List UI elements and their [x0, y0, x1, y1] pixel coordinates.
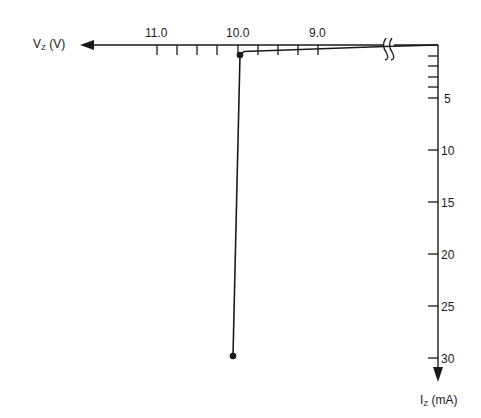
- zener-characteristic-chart: [0, 0, 481, 418]
- y-axis-title-unit: (mA): [432, 393, 458, 407]
- x-axis-title: VZ (V): [33, 37, 65, 52]
- x-tick-label-9: 9.0: [309, 26, 326, 40]
- x-axis-arrow-icon: [80, 40, 94, 50]
- zener-curve: [233, 45, 438, 356]
- y-tick-label-25: 25: [441, 300, 454, 314]
- x-axis-title-unit: (V): [49, 37, 65, 51]
- axis-break-icon: [384, 38, 394, 60]
- x-axis-title-symbol: V: [33, 37, 41, 51]
- x-axis-title-subscript: Z: [41, 43, 46, 52]
- y-tick-label-30: 30: [441, 352, 454, 366]
- y-axis-title-subscript: Z: [423, 399, 428, 408]
- x-tick-label-11: 11.0: [145, 26, 167, 40]
- y-tick-label-15: 15: [441, 196, 454, 210]
- y-tick-label-5: 5: [444, 92, 451, 106]
- y-tick-label-10: 10: [441, 144, 454, 158]
- max-current-point-marker: [230, 353, 237, 360]
- y-axis-arrow-icon: [433, 367, 443, 382]
- y-tick-label-20: 20: [441, 248, 454, 262]
- x-tick-label-10: 10.0: [226, 26, 249, 40]
- y-axis-ticks: [428, 56, 438, 358]
- knee-point-marker: [237, 52, 244, 59]
- y-axis-title: IZ (mA): [420, 393, 458, 408]
